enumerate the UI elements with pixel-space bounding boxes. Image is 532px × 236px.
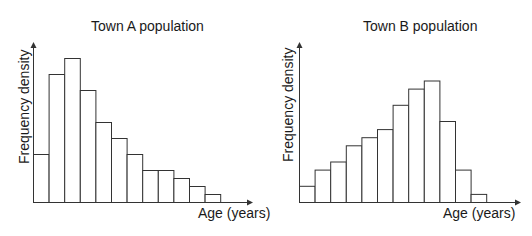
histogram-bar [190,187,206,203]
histogram-bar [362,138,378,203]
histogram-bar [80,91,96,203]
chart-title: Town A population [91,18,204,34]
town-b-chart: Town B population Frequency density Age … [266,0,532,236]
y-axis-arrow-icon [297,42,303,48]
y-axis-label: Frequency density [280,48,296,162]
x-axis-label: Age (years) [198,205,270,221]
histogram-bar [346,146,362,203]
y-axis-label: Frequency density [16,50,32,164]
histogram-bar [34,155,50,203]
histogram-bar [300,186,316,202]
histogram-bar [378,130,394,203]
chart-title: Town B population [363,18,477,34]
histogram-bar [205,195,221,203]
town-b-plot-area [266,0,532,236]
town-a-chart: Town A population Frequency density Age … [0,0,266,236]
histogram-bar [471,194,487,202]
histogram-bar [112,139,128,203]
histogram-bar [49,75,65,203]
histogram-bar [143,171,159,203]
histogram-bar [174,179,190,203]
histogram-bar [393,105,409,202]
histogram-bar [331,162,347,203]
y-axis-arrow-icon [31,42,37,48]
x-axis-label: Age (years) [443,205,515,221]
histogram-bar [315,170,331,202]
x-axis-arrow-icon [515,200,521,206]
histogram-bar [127,155,143,203]
histogram-bar [456,170,472,202]
histogram-bar [65,59,81,203]
town-a-plot-area [0,0,266,236]
histogram-bar [440,122,456,203]
histogram-bar [158,171,174,203]
histogram-bar [424,81,440,203]
histogram-bar [409,89,425,202]
histogram-bar [96,123,112,203]
